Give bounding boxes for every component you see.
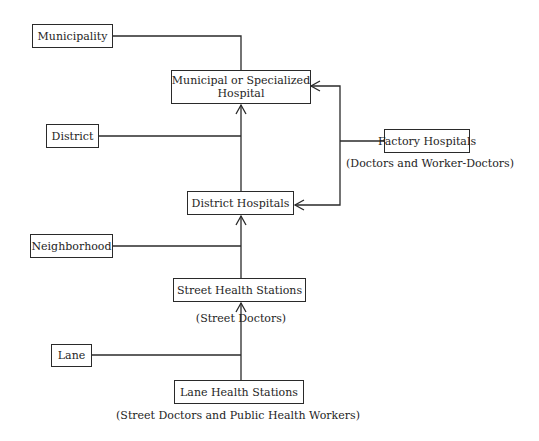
municipality-connector	[113, 36, 241, 70]
level-municipality-label: Municipality	[38, 30, 108, 43]
street-health-staff-caption: (Street Doctors)	[196, 312, 286, 325]
healthcare-hierarchy-diagram: Municipality District Neighborhood Lane …	[0, 0, 539, 441]
municipal-hospital-line2: Hospital	[218, 87, 265, 100]
street-health-stations-label: Street Health Stations	[177, 284, 302, 297]
level-municipality: Municipality	[32, 24, 113, 48]
district-hospitals-box: District Hospitals	[187, 191, 294, 215]
municipal-hospital-box: Municipal or Specialized Hospital	[171, 70, 311, 104]
level-district: District	[46, 124, 99, 148]
factory-hospitals-box: Factory Hospitals	[384, 129, 470, 153]
level-neighborhood: Neighborhood	[30, 234, 113, 258]
level-neighborhood-label: Neighborhood	[31, 240, 111, 253]
municipal-hospital-line1: Municipal or Specialized	[172, 74, 310, 87]
lane-health-stations-label: Lane Health Stations	[180, 386, 298, 399]
connector-lines	[0, 0, 539, 441]
lane-health-stations-box: Lane Health Stations	[174, 380, 304, 404]
level-lane-label: Lane	[58, 349, 85, 362]
factory-hospitals-label: Factory Hospitals	[378, 135, 476, 148]
level-lane: Lane	[51, 344, 92, 367]
lane-health-staff-caption: (Street Doctors and Public Health Worker…	[116, 409, 360, 422]
factory-staff-caption: (Doctors and Worker-Doctors)	[346, 157, 514, 170]
street-health-stations-box: Street Health Stations	[173, 278, 306, 302]
level-district-label: District	[52, 130, 94, 143]
district-hospitals-label: District Hospitals	[192, 197, 290, 210]
